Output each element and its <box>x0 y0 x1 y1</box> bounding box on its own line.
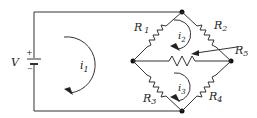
arrowhead-icon <box>64 87 73 95</box>
resistor-r5 <box>133 56 231 66</box>
r5-label: R5 <box>234 44 248 58</box>
source-label: V <box>11 56 20 69</box>
resistor-r3 <box>133 61 182 111</box>
battery-source <box>27 59 41 64</box>
mesh-i2-label: i2 <box>178 30 186 44</box>
mesh-i1-label: i1 <box>80 59 89 74</box>
battery-plus: + <box>26 48 33 57</box>
mesh-i3-label: i3 <box>178 82 186 96</box>
bridge-circuit-diagram: + − V i1 i2 i3 R1 R2 R3 R4 R5 <box>0 0 257 118</box>
resistor-r1 <box>133 12 182 61</box>
r1-label: R1 <box>133 21 149 35</box>
arrowhead-icon <box>191 50 199 56</box>
arrowhead-icon <box>170 43 180 51</box>
resistor-r4 <box>182 61 231 111</box>
battery-minus: − <box>27 65 33 73</box>
resistor-r2 <box>182 12 231 61</box>
r2-label: R2 <box>213 19 227 33</box>
r4-label: R4 <box>208 90 222 104</box>
r3-label: R3 <box>142 92 156 106</box>
